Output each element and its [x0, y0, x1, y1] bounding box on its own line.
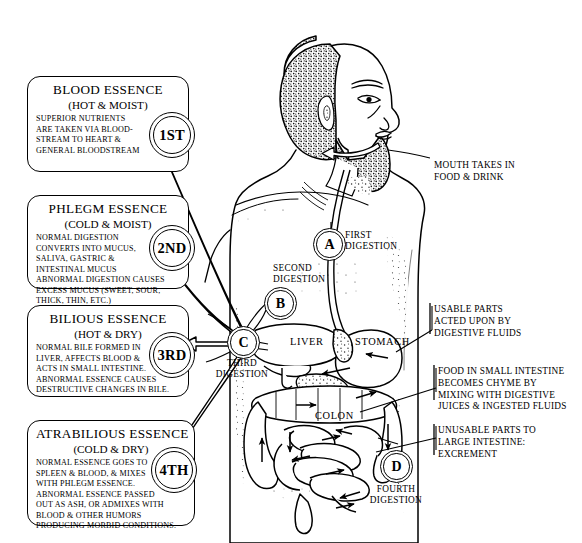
stage-label-line: DIGESTION — [345, 241, 397, 252]
ordinal-badge-3rd[interactable]: 3RD — [149, 332, 195, 378]
stage-label-line: THIRD — [210, 358, 274, 369]
callout-line: ACTED UPON BY — [434, 316, 521, 328]
essence-line: DESTRUCTIVE CHANGES IN BILE. — [36, 385, 180, 396]
stage-label-second-digestion: SECOND DIGESTION — [273, 263, 325, 285]
ordinal-badge-4th[interactable]: 4TH — [151, 447, 197, 493]
callout-line: USABLE PARTS — [434, 304, 521, 316]
callout-line: EXCREMENT — [438, 449, 536, 461]
essence-line: BLOOD & OTHER HUMORS — [36, 511, 186, 522]
stage-label-line: DIGESTION — [363, 495, 429, 506]
stage-label-first-digestion: FIRST DIGESTION — [345, 230, 397, 252]
stage-letter: B — [276, 296, 285, 312]
diagram-canvas: BLOOD ESSENCE (HOT & MOIST) SUPERIOR NUT… — [0, 0, 582, 543]
callout-line: FOOD IN SMALL INTESTINE — [438, 366, 567, 378]
stage-node-b[interactable]: B — [264, 287, 297, 320]
stage-letter: A — [324, 237, 334, 253]
essence-line: OUT AS ASH, OR ADMIXES WITH — [36, 500, 186, 511]
essence-line: ABNORMAL ESSENCE CAUSES — [36, 375, 180, 386]
callout-mouth-intake: MOUTH TAKES IN FOOD & DRINK — [434, 160, 515, 184]
stage-label-line: FOURTH — [363, 484, 429, 495]
organ-label-liver: LIVER — [290, 336, 324, 347]
stage-label-line: FIRST — [345, 230, 397, 241]
callout-line: DIGESTIVE FLUIDS — [434, 328, 521, 340]
ordinal-badge-1st[interactable]: 1ST — [149, 112, 195, 158]
stage-node-d[interactable]: D — [380, 450, 413, 483]
essence-title: PHLEGM ESSENCE — [36, 202, 180, 217]
callout-line: UNUSABLE PARTS TO — [438, 425, 536, 437]
stage-label-fourth-digestion: FOURTH DIGESTION — [363, 484, 429, 506]
organ-label-colon: COLON — [315, 410, 354, 421]
essence-title: ATRABILIOUS ESSENCE — [36, 427, 186, 442]
stage-letter: C — [238, 335, 248, 351]
organ-label-stomach: STOMACH — [355, 336, 410, 347]
stage-label-line: DIGESTION — [273, 274, 325, 285]
ordinal-label: 3RD — [158, 347, 187, 364]
stage-node-a[interactable]: A — [313, 228, 346, 261]
essence-line: EXCESS MUCUS (SWEET, SOUR, — [36, 286, 180, 297]
callout-line: MIXING WITH DIGESTIVE — [438, 390, 567, 402]
callout-usable-parts: USABLE PARTS ACTED UPON BY DIGESTIVE FLU… — [434, 304, 521, 339]
callout-line: JUICES & INGESTED FLUIDS — [438, 401, 567, 413]
callout-line: MOUTH TAKES IN — [434, 160, 515, 172]
stage-label-third-digestion: THIRD DIGESTION — [210, 358, 274, 380]
essence-qualities: (HOT & MOIST) — [36, 98, 180, 113]
callout-line: BECOMES CHYME BY — [438, 378, 567, 390]
callout-chyme-formation: FOOD IN SMALL INTESTINE BECOMES CHYME BY… — [438, 366, 567, 413]
ordinal-label: 4TH — [160, 462, 189, 479]
callout-line: FOOD & DRINK — [434, 172, 515, 184]
ordinal-label: 2ND — [158, 240, 187, 257]
stage-label-line: SECOND — [273, 263, 325, 274]
stage-letter: D — [391, 459, 401, 475]
essence-title: BILIOUS ESSENCE — [36, 312, 180, 327]
essence-line: ABNORMAL DIGESTION CAUSES — [36, 275, 180, 286]
essence-line: PRODUCING MORBID CONDITIONS. — [36, 521, 186, 532]
callout-line: LARGE INTESTINE: — [438, 437, 536, 449]
ordinal-label: 1ST — [159, 127, 185, 144]
ordinal-badge-2nd[interactable]: 2ND — [149, 225, 195, 271]
essence-title: BLOOD ESSENCE — [36, 83, 180, 98]
stage-label-line: DIGESTION — [210, 369, 274, 380]
essence-line: ABNORMAL ESSENCE PASSED — [36, 490, 186, 501]
callout-unusable-parts: UNUSABLE PARTS TO LARGE INTESTINE: EXCRE… — [438, 425, 536, 460]
stage-node-c[interactable]: C — [227, 326, 260, 359]
